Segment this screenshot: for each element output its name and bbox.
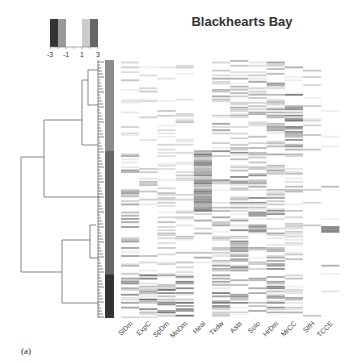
heatmap-cell bbox=[121, 200, 139, 202]
column-label: HrDm bbox=[262, 320, 280, 338]
heatmap-cell bbox=[321, 145, 339, 147]
heatmap-cell bbox=[285, 191, 303, 193]
heatmap-cell bbox=[285, 286, 303, 288]
heatmap-cell bbox=[139, 291, 157, 293]
heatmap-cell bbox=[176, 310, 194, 312]
heatmap-cell bbox=[248, 278, 266, 280]
heatmap-cell bbox=[285, 254, 303, 256]
heatmap-cell bbox=[230, 86, 248, 88]
heatmap-cell bbox=[267, 244, 285, 246]
heatmap-cell bbox=[176, 271, 194, 273]
heatmap-cell bbox=[176, 224, 194, 226]
heatmap-cell bbox=[139, 262, 157, 264]
heatmap-cell bbox=[139, 295, 157, 297]
heatmap-cell bbox=[139, 313, 157, 315]
heatmap-cell bbox=[267, 300, 285, 302]
heatmap-cell bbox=[248, 213, 266, 215]
heatmap-cell bbox=[212, 249, 230, 251]
heatmap-cell bbox=[230, 104, 248, 106]
heatmap-cell bbox=[157, 274, 175, 276]
heatmap-cell bbox=[248, 154, 266, 156]
heatmap-cell bbox=[267, 131, 285, 133]
heatmap-cell bbox=[230, 189, 248, 191]
heatmap-cell bbox=[285, 120, 303, 122]
heatmap-cell bbox=[267, 62, 285, 64]
heatmap-cell bbox=[176, 262, 194, 264]
heatmap-cell bbox=[194, 174, 212, 176]
heatmap-cell bbox=[303, 84, 321, 86]
heatmap-cell bbox=[285, 134, 303, 136]
heatmap-cell bbox=[176, 315, 194, 317]
heatmap-cell bbox=[121, 226, 139, 228]
heatmap-cell bbox=[121, 158, 139, 160]
color-key-legend: -3-113 bbox=[47, 19, 100, 58]
heatmap-cell bbox=[121, 255, 139, 257]
heatmap-cell bbox=[267, 195, 285, 197]
heatmap-cell bbox=[212, 129, 230, 131]
heatmap-cell bbox=[267, 126, 285, 128]
heatmap-cells bbox=[121, 60, 339, 318]
heatmap-cell bbox=[194, 199, 212, 201]
heatmap-cell bbox=[267, 260, 285, 262]
heatmap-cell bbox=[248, 121, 266, 123]
heatmap-cell bbox=[157, 229, 175, 231]
heatmap-cell bbox=[285, 226, 303, 228]
column-label: SlfH bbox=[301, 320, 315, 334]
heatmap-cell bbox=[121, 215, 139, 217]
heatmap-cell bbox=[267, 141, 285, 143]
heatmap-cell bbox=[139, 183, 157, 185]
heatmap-cell bbox=[176, 73, 194, 75]
heatmap-cell bbox=[139, 308, 157, 310]
heatmap-cell bbox=[230, 147, 248, 149]
heatmap-cell bbox=[176, 212, 194, 214]
heatmap-cell bbox=[194, 210, 212, 212]
heatmap-cell bbox=[285, 79, 303, 81]
heatmap-cell bbox=[176, 218, 194, 220]
heatmap-cell bbox=[121, 263, 139, 265]
heatmap-cell bbox=[303, 202, 321, 204]
heatmap-cell bbox=[267, 113, 285, 115]
heatmap-cell bbox=[176, 113, 194, 115]
heatmap-cell bbox=[212, 116, 230, 118]
heatmap-cell bbox=[157, 144, 175, 146]
heatmap-cell bbox=[230, 155, 248, 157]
heatmap-cell bbox=[303, 105, 321, 107]
row-dendrogram bbox=[21, 60, 104, 318]
heatmap-cell bbox=[194, 262, 212, 264]
heatmap-cell bbox=[285, 94, 303, 96]
heatmap-cell bbox=[285, 239, 303, 241]
heatmap-cell bbox=[194, 213, 212, 215]
heatmap-cell bbox=[267, 268, 285, 270]
heatmap-cell bbox=[267, 287, 285, 289]
heatmap-cell bbox=[267, 194, 285, 196]
heatmap-cell bbox=[139, 171, 157, 173]
heatmap-cell bbox=[212, 78, 230, 80]
heatmap-cell bbox=[157, 302, 175, 304]
heatmap-cell bbox=[248, 113, 266, 115]
heatmap-cell bbox=[212, 255, 230, 257]
heatmap-cell bbox=[139, 294, 157, 296]
heatmap-cell bbox=[121, 171, 139, 173]
heatmap-cell bbox=[230, 83, 248, 85]
heatmap-cell bbox=[194, 208, 212, 210]
heatmap-cell bbox=[121, 281, 139, 283]
heatmap-cell bbox=[139, 302, 157, 304]
heatmap-cell bbox=[194, 162, 212, 164]
heatmap-cell bbox=[121, 99, 139, 101]
heatmap-cell bbox=[194, 168, 212, 170]
heatmap-cell bbox=[176, 237, 194, 239]
cluster-band-1 bbox=[105, 60, 114, 150]
heatmap-cell bbox=[321, 229, 339, 231]
heatmap-cell bbox=[267, 308, 285, 310]
heatmap-cell bbox=[230, 299, 248, 301]
column-label: MrCC bbox=[280, 320, 298, 338]
heatmap-cell bbox=[230, 265, 248, 267]
heatmap-cell bbox=[248, 174, 266, 176]
heatmap-cell bbox=[248, 228, 266, 230]
heatmap-cell bbox=[230, 87, 248, 89]
heatmap-cell bbox=[267, 108, 285, 110]
heatmap-cell bbox=[121, 79, 139, 81]
column-label: ExpC bbox=[135, 320, 153, 338]
heatmap-cell bbox=[248, 81, 266, 83]
heatmap-cell bbox=[157, 192, 175, 194]
